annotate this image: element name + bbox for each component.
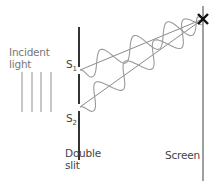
double-slit-label: Double slit <box>65 147 101 171</box>
incident-light-rays <box>22 72 51 112</box>
ray-s1-to-point <box>80 19 203 70</box>
incident-light-label: Incident light <box>9 46 50 70</box>
double-slit-label-line1: Double <box>65 147 101 159</box>
incident-label-line1: Incident <box>9 46 50 58</box>
incident-label-line2: light <box>9 58 50 70</box>
double-slit-label-line2: slit <box>65 159 101 171</box>
slit1-label: S1 <box>66 58 77 72</box>
slit1-label-sub: 1 <box>72 65 76 73</box>
slit2-label: S2 <box>66 112 77 126</box>
wave-from-s1 <box>80 17 203 77</box>
slit2-label-sub: 2 <box>72 119 76 127</box>
screen-label-text: Screen <box>165 149 200 161</box>
screen-label: Screen <box>165 149 200 161</box>
